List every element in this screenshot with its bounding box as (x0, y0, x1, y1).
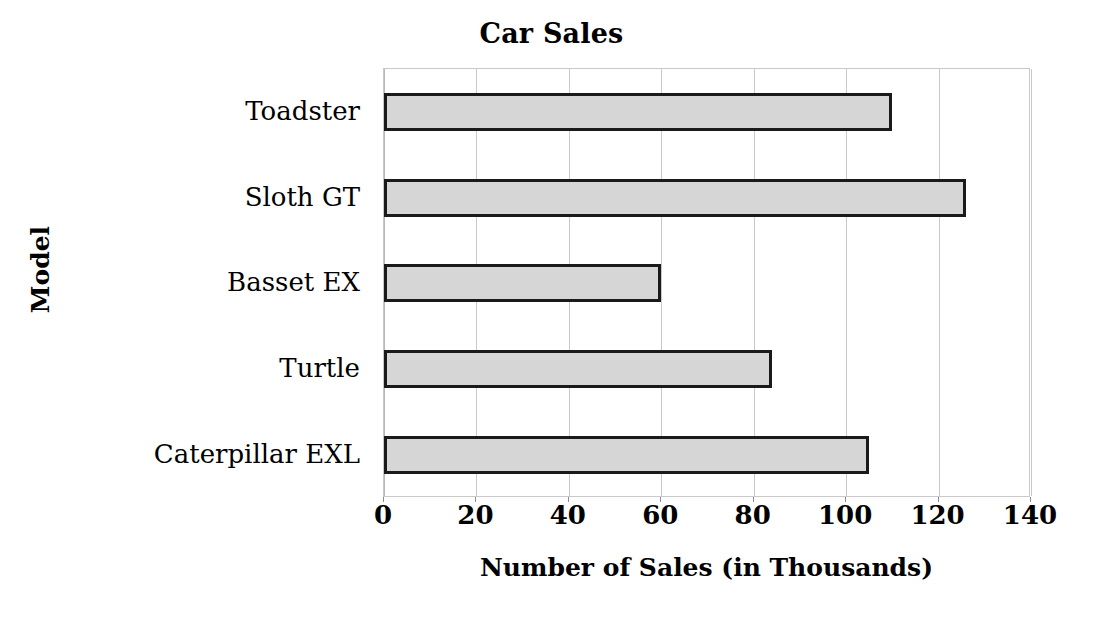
x-tick-label: 140 (1003, 500, 1057, 530)
x-tick-label: 20 (457, 500, 493, 530)
x-tick-label: 120 (910, 500, 964, 530)
bar (384, 436, 869, 474)
x-axis-title: Number of Sales (in Thousands) (383, 553, 1030, 582)
x-tick-label: 60 (642, 500, 678, 530)
bar-row (384, 241, 1029, 327)
bar (384, 93, 892, 131)
bar (384, 264, 661, 302)
y-tick-label: Toadster (0, 68, 372, 154)
plot-area (383, 68, 1030, 497)
x-tick-label: 0 (374, 500, 392, 530)
bar-chart-figure: Car Sales Model ToadsterSloth GTBasset E… (0, 0, 1103, 632)
bar-row (384, 326, 1029, 412)
y-axis-tick-labels: ToadsterSloth GTBasset EXTurtleCaterpill… (0, 68, 372, 497)
gridline-140 (1031, 69, 1032, 496)
chart-title: Car Sales (0, 18, 1103, 49)
bar-row (384, 69, 1029, 155)
y-tick-label: Sloth GT (0, 154, 372, 240)
x-tick-label: 100 (818, 500, 872, 530)
x-axis-tick-labels: 020406080100120140 (383, 500, 1030, 540)
x-tick-label: 40 (550, 500, 586, 530)
y-tick-label: Basset EX (0, 240, 372, 326)
bar-row (384, 412, 1029, 498)
bar (384, 179, 966, 217)
bar (384, 350, 772, 388)
bar-row (384, 155, 1029, 241)
y-tick-label: Turtle (0, 325, 372, 411)
x-tick-label: 80 (735, 500, 771, 530)
y-tick-label: Caterpillar EXL (0, 411, 372, 497)
